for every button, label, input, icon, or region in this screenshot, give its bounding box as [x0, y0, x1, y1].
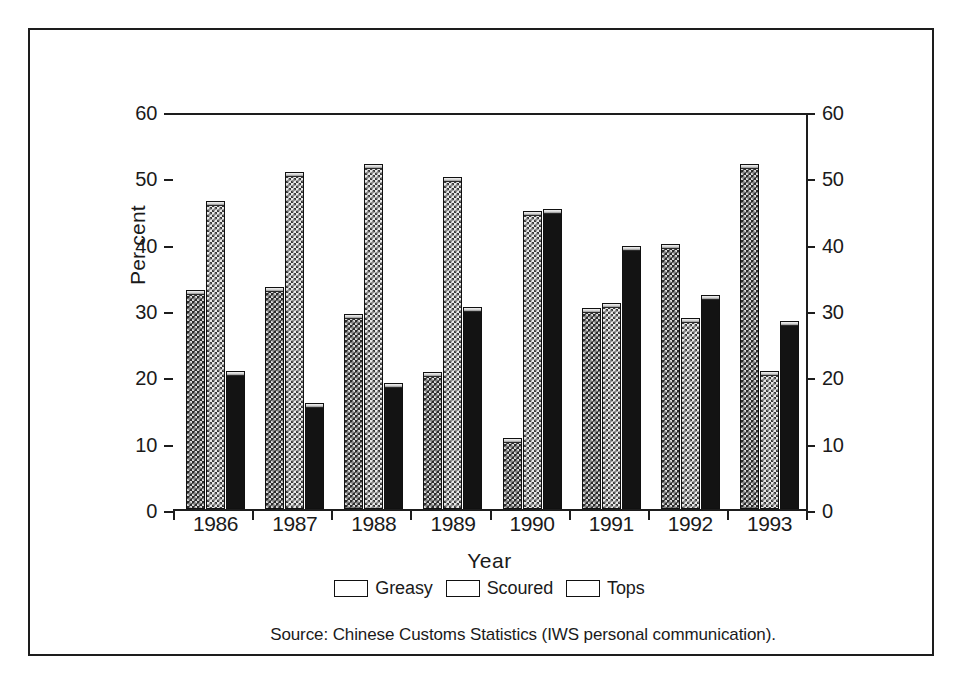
bar-scoured-1989 [443, 177, 462, 509]
bar-group [490, 115, 569, 509]
y-tick-label-left: 40 [117, 236, 157, 256]
bar-tops-1993 [780, 321, 799, 509]
legend-item-tops: Tops [566, 578, 645, 599]
bar-tops-1988 [384, 383, 403, 509]
y-tick-mark-right [806, 445, 815, 447]
bar-scoured-1986 [206, 201, 225, 509]
bar-tops-1992 [701, 295, 720, 509]
bar-top-highlight [286, 173, 303, 177]
x-tick-label-1992: 1992 [655, 512, 725, 536]
y-tick-mark-right [806, 378, 815, 380]
y-tick-label-right: 10 [822, 435, 862, 455]
bar-scoured-1988 [364, 164, 383, 509]
legend-item-scoured: Scoured [446, 578, 553, 599]
chart-legend: GreasyScouredTops [173, 578, 806, 599]
x-tick-mark [490, 511, 492, 520]
bar-top-highlight [444, 178, 461, 182]
x-tick-mark [252, 511, 254, 520]
bar-greasy-1990 [503, 438, 522, 509]
bar-scoured-1992 [681, 318, 700, 509]
bar-top-highlight [682, 319, 699, 323]
y-tick-label-left: 10 [117, 435, 157, 455]
x-tick-mark [806, 511, 808, 520]
legend-swatch-greasy [334, 580, 368, 597]
y-tick-label-right: 40 [822, 236, 862, 256]
bar-tops-1991 [622, 246, 641, 509]
bar-top-highlight [207, 202, 224, 206]
bar-top-highlight [306, 404, 323, 408]
bar-group [648, 115, 727, 509]
y-tick-mark-left [164, 312, 173, 314]
bar-group [569, 115, 648, 509]
bar-top-highlight [702, 296, 719, 300]
bar-scoured-1991 [602, 303, 621, 509]
x-tick-mark [727, 511, 729, 520]
bar-group [252, 115, 331, 509]
bar-top-highlight [504, 439, 521, 443]
y-tick-label-right: 20 [822, 368, 862, 388]
bar-top-highlight [781, 322, 798, 326]
legend-label-tops: Tops [607, 578, 645, 599]
y-tick-mark-right [806, 246, 815, 248]
y-tick-label-right: 0 [822, 501, 862, 521]
bar-top-highlight [603, 304, 620, 308]
x-tick-label-1987: 1987 [260, 512, 330, 536]
x-tick-mark [173, 511, 175, 520]
bar-group [173, 115, 252, 509]
x-tick-label-1993: 1993 [734, 512, 804, 536]
bar-top-highlight [266, 288, 283, 292]
bar-tops-1989 [463, 307, 482, 509]
y-tick-mark-left [164, 511, 173, 513]
x-tick-label-1990: 1990 [497, 512, 567, 536]
y-tick-mark-right [806, 113, 815, 115]
bar-top-highlight [365, 165, 382, 169]
bar-top-highlight [187, 291, 204, 295]
bar-tops-1987 [305, 403, 324, 509]
legend-swatch-scoured [446, 580, 480, 597]
bar-top-highlight [623, 247, 640, 251]
bar-greasy-1991 [582, 308, 601, 509]
y-tick-mark-left [164, 378, 173, 380]
bar-top-highlight [524, 212, 541, 216]
source-note: Source: Chinese Customs Statistics (IWS … [173, 625, 873, 645]
y-tick-mark-right [806, 312, 815, 314]
bar-greasy-1992 [661, 244, 680, 509]
bar-scoured-1990 [523, 211, 542, 510]
x-tick-mark [331, 511, 333, 520]
y-tick-label-left: 0 [117, 501, 157, 521]
y-tick-mark-left [164, 179, 173, 181]
y-tick-label-left: 50 [117, 169, 157, 189]
bar-top-highlight [662, 245, 679, 249]
bar-group [331, 115, 410, 509]
bar-group [727, 115, 806, 509]
bar-tops-1990 [543, 209, 562, 509]
bar-tops-1986 [226, 371, 245, 509]
bar-top-highlight [345, 315, 362, 319]
bar-greasy-1987 [265, 287, 284, 509]
bar-top-highlight [761, 372, 778, 376]
bar-scoured-1987 [285, 172, 304, 509]
x-tick-mark [569, 511, 571, 520]
bar-top-highlight [227, 372, 244, 376]
x-tick-label-1988: 1988 [339, 512, 409, 536]
y-tick-label-right: 60 [822, 103, 862, 123]
y-tick-mark-left [164, 113, 173, 115]
y-tick-mark-right [806, 179, 815, 181]
x-tick-mark [410, 511, 412, 520]
x-axis-title: Year [173, 549, 806, 573]
bar-top-highlight [385, 384, 402, 388]
bar-top-highlight [424, 373, 441, 377]
bar-scoured-1993 [760, 371, 779, 509]
legend-item-greasy: Greasy [334, 578, 432, 599]
bar-greasy-1988 [344, 314, 363, 509]
bar-greasy-1986 [186, 290, 205, 509]
x-tick-label-1986: 1986 [181, 512, 251, 536]
y-tick-mark-left [164, 445, 173, 447]
y-tick-label-left: 60 [117, 103, 157, 123]
x-tick-mark [648, 511, 650, 520]
y-tick-label-left: 30 [117, 302, 157, 322]
bar-greasy-1989 [423, 372, 442, 509]
bar-group [410, 115, 489, 509]
x-tick-label-1991: 1991 [576, 512, 646, 536]
legend-label-greasy: Greasy [375, 578, 432, 599]
